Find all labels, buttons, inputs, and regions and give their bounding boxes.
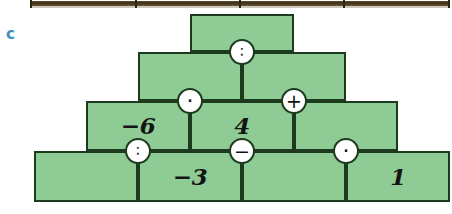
- pyramid-cell-value: −3: [140, 165, 240, 188]
- operator-minus-icon[interactable]: −: [229, 138, 255, 164]
- pyramid-cell-r4c3[interactable]: [242, 151, 346, 202]
- operator-multiply-icon[interactable]: ·: [333, 138, 359, 164]
- pyramid-cell-r4c4[interactable]: 1: [346, 151, 450, 202]
- pyramid-cell-r4c1[interactable]: [34, 151, 138, 202]
- pyramid-cell-value: −6: [88, 114, 188, 137]
- pyramid-cell-value: 1: [348, 165, 448, 188]
- operator-divide-icon[interactable]: ∶: [125, 138, 151, 164]
- operator-divide-icon[interactable]: ∶: [229, 39, 255, 65]
- pyramid-cell-r4c2[interactable]: −3: [138, 151, 242, 202]
- number-pyramid: −6 4 −3 1 ∶ · + ∶ − ·: [0, 0, 452, 214]
- operator-plus-icon[interactable]: +: [281, 88, 307, 114]
- operator-multiply-icon[interactable]: ·: [177, 88, 203, 114]
- pyramid-cell-value: 4: [192, 114, 292, 137]
